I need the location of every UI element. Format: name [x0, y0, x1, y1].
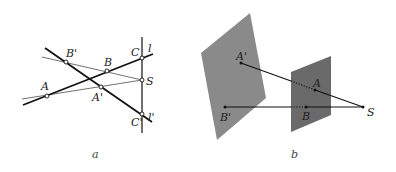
figure-b: A' B' A B S b — [201, 13, 375, 161]
point-s — [140, 78, 144, 82]
label-l: l — [148, 42, 152, 55]
point-b-b — [305, 106, 308, 109]
label-a-prime-b: A' — [235, 50, 247, 63]
label-a-prime: A' — [91, 91, 103, 104]
figure-a: A B C l A' B' S C' l' a — [22, 37, 155, 161]
projection-ray-b — [42, 57, 142, 80]
label-c-prime: C' — [131, 116, 142, 129]
label-b-prime-b: B' — [219, 111, 231, 124]
point-a — [45, 94, 49, 98]
label-b: B — [103, 56, 112, 69]
large-plane — [201, 13, 266, 140]
label-b-prime: B' — [65, 47, 77, 60]
point-c — [140, 56, 144, 60]
caption-a: a — [92, 148, 99, 161]
point-s-b — [362, 106, 365, 109]
label-s: S — [146, 75, 154, 88]
label-l-prime: l' — [148, 111, 155, 124]
point-b — [105, 69, 109, 73]
projection-ray-a — [22, 80, 142, 99]
point-b-prime-b — [224, 106, 227, 109]
caption-b: b — [291, 148, 298, 161]
label-a: A — [40, 80, 49, 93]
point-b-prime — [64, 60, 68, 64]
point-a-prime — [99, 85, 103, 89]
line-l-prime — [45, 48, 152, 122]
label-a-b: A — [312, 77, 321, 90]
label-b-b: B — [301, 110, 310, 123]
label-c: C — [131, 46, 140, 59]
perspective-diagram: A B C l A' B' S C' l' a A' B' A B — [0, 0, 396, 172]
label-s-b: S — [367, 106, 375, 119]
